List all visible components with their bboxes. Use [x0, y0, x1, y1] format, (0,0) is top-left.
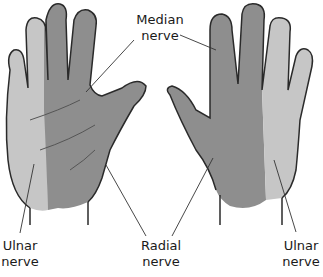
- ulnar-nerve-label-left: Ulnar nerve: [0, 238, 40, 270]
- radial-pointer-right: [172, 158, 213, 236]
- radial-pointer-left: [106, 165, 146, 236]
- median-nerve-label: Median nerve: [132, 12, 188, 44]
- ulnar-region-right: [262, 18, 313, 200]
- right-hand-back: [167, 4, 312, 225]
- nerve-hand-diagram: Median nerve Ulnar nerve Radial nerve Ul…: [0, 0, 323, 277]
- radial-nerve-label: Radial nerve: [133, 238, 189, 270]
- left-hand-palm: [6, 4, 146, 225]
- ulnar-nerve-label-right: Ulnar nerve: [280, 238, 322, 270]
